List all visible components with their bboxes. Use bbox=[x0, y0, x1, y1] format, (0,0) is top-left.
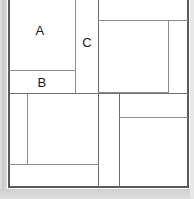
divider-lower-mid bbox=[119, 93, 120, 187]
region-lower-left-bottom[interactable] bbox=[9, 165, 98, 186]
region-lower-right-main[interactable] bbox=[120, 118, 187, 186]
region-lower-left-narrow[interactable] bbox=[9, 94, 27, 164]
region-top-right[interactable] bbox=[99, 0, 187, 20]
divider-top-right bbox=[98, 20, 188, 21]
divider-a-b bbox=[9, 70, 76, 71]
page-edge-right bbox=[190, 0, 194, 199]
divider-lower-left-base bbox=[9, 164, 99, 165]
divider-right-main-base bbox=[98, 92, 169, 93]
frame-right bbox=[187, 0, 189, 188]
divider-b-bottom bbox=[9, 93, 188, 94]
page-edge-left bbox=[0, 0, 7, 199]
figure-canvas: A B C bbox=[0, 0, 194, 199]
label-c: C bbox=[82, 36, 92, 49]
frame-left bbox=[8, 0, 10, 188]
label-a: A bbox=[36, 24, 45, 37]
region-right-narrow[interactable] bbox=[169, 21, 187, 92]
region-right-main[interactable] bbox=[99, 21, 168, 92]
divider-lower-right-top bbox=[119, 117, 188, 118]
divider-lower-left-inner bbox=[27, 93, 28, 165]
divider-right-narrow bbox=[168, 20, 169, 93]
region-lower-mid-column[interactable] bbox=[99, 94, 119, 186]
page-edge-bottom bbox=[0, 189, 194, 199]
region-lower-right-top[interactable] bbox=[120, 94, 187, 117]
region-lower-left-main[interactable] bbox=[28, 94, 98, 164]
divider-ab-c bbox=[75, 0, 76, 93]
label-b: B bbox=[38, 76, 47, 89]
